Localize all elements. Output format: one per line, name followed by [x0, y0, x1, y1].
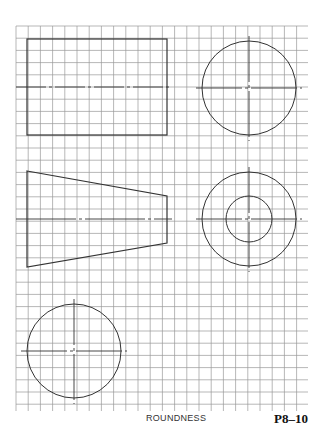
circle-view-top-right — [196, 36, 302, 141]
graph-grid — [16, 26, 308, 411]
rectangle-view — [16, 39, 172, 135]
circle-view-bottom-left — [21, 299, 127, 404]
figure-number: P8–10 — [274, 411, 308, 427]
drawing-caption: ROUNDNESS — [146, 413, 206, 423]
roundness-drawing-sheet — [0, 0, 324, 446]
trapezoid-view — [16, 171, 172, 267]
concentric-circles-view — [196, 167, 302, 272]
